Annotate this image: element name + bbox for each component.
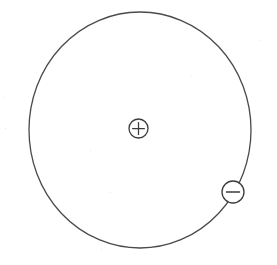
nucleus-group [129, 119, 148, 138]
atom-diagram-svg [0, 0, 277, 265]
atom-diagram-canvas: + − Atom model: nucleus with orbiting el… [0, 0, 277, 265]
electron-group [222, 181, 244, 203]
